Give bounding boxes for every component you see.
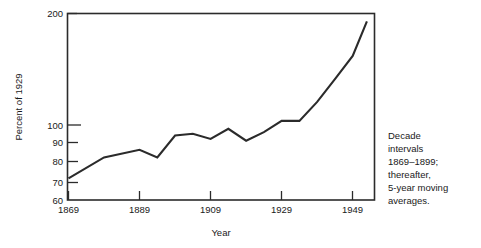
annotation-line-1: Decade xyxy=(388,130,421,141)
annotation-line-4: thereafter, xyxy=(388,169,431,180)
y-axis-ticks xyxy=(68,14,82,183)
x-tick-label-1869: 1869 xyxy=(58,204,79,215)
x-tick-label-1929: 1929 xyxy=(271,204,292,215)
x-tick-label-1949: 1949 xyxy=(342,204,363,215)
chart-figure: 200 100 90 80 70 60 1869 1889 1909 1929 … xyxy=(0,0,481,248)
annotation-line-2: intervals xyxy=(388,143,424,154)
x-tick-label-1909: 1909 xyxy=(200,204,221,215)
annotation-line-6: averages. xyxy=(388,195,430,206)
annotation-line-3: 1869–1899; xyxy=(388,156,438,167)
y-axis-title: Percent of 1929 xyxy=(13,73,24,140)
data-series-line xyxy=(69,21,367,178)
x-axis-ticks xyxy=(69,191,353,200)
plot-frame xyxy=(68,14,375,201)
line-chart: 200 100 90 80 70 60 1869 1889 1909 1929 … xyxy=(0,0,481,248)
x-axis-title: Year xyxy=(211,227,230,238)
y-tick-label-200: 200 xyxy=(47,8,63,19)
annotation-line-5: 5-year moving xyxy=(388,182,448,193)
y-axis-tick-labels: 200 100 90 80 70 60 xyxy=(47,8,63,206)
plot-border xyxy=(68,14,375,201)
y-tick-label-80: 80 xyxy=(52,156,63,167)
y-tick-label-70: 70 xyxy=(52,177,63,188)
x-tick-label-1889: 1889 xyxy=(129,204,150,215)
chart-annotation-note: Decade intervals 1869–1899; thereafter, … xyxy=(388,130,448,206)
x-axis-tick-labels: 1869 1889 1909 1929 1949 xyxy=(58,204,363,215)
y-tick-label-90: 90 xyxy=(52,137,63,148)
y-tick-label-100: 100 xyxy=(47,120,63,131)
